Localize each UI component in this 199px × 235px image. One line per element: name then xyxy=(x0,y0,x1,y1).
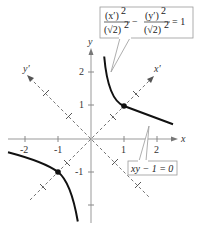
y-tick-label: -1 xyxy=(75,166,83,177)
eq-exponent: 2 xyxy=(124,19,129,30)
x-prime-axis xyxy=(30,80,150,200)
eq-exponent: 2 xyxy=(164,19,169,30)
y-tick-label: 1 xyxy=(79,99,84,110)
x-prime-label: x′ xyxy=(153,63,161,74)
vertex-point xyxy=(121,103,127,109)
x-tick-label: 2 xyxy=(154,144,159,155)
rotated-equation-callout: (x′) 2 (√2) 2 − (y′) 2 (√2) 2 = 1 xyxy=(100,5,193,72)
eq-standard-form: xy − 1 = 0 xyxy=(130,163,173,174)
y-prime-axis xyxy=(30,78,150,198)
x-tick-label: 1 xyxy=(121,144,126,155)
standard-equation-callout: xy − 1 = 0 xyxy=(128,126,177,175)
y-prime-label: y′ xyxy=(22,63,30,74)
eq-exponent: 2 xyxy=(161,5,166,16)
eq-denominator-2: (√2) xyxy=(144,24,161,36)
eq-denominator-1: (√2) xyxy=(104,24,121,36)
eq-exponent: 2 xyxy=(121,5,126,16)
hyperbola-diagram: -2 -1 1 2 2 1 -1 x y x′ y′ (x′) 2 xyxy=(0,0,199,235)
eq-numerator-1: (x′) xyxy=(105,10,119,22)
x-tick-label: -1 xyxy=(54,144,62,155)
y-axis-arrow-icon xyxy=(89,48,94,55)
eq-numerator-2: (y′) xyxy=(145,10,159,22)
x-axis-label: x xyxy=(180,133,186,144)
hyperbola-branch-q1 xyxy=(104,57,173,125)
x-tick-label: -2 xyxy=(20,144,28,155)
eq-rhs: = 1 xyxy=(172,16,185,27)
y-tick-label: 2 xyxy=(79,66,84,77)
y-axis-label: y xyxy=(87,36,93,47)
vertex-point xyxy=(55,169,61,175)
x-axis-arrow-icon xyxy=(171,137,178,142)
eq-minus: − xyxy=(132,16,138,27)
